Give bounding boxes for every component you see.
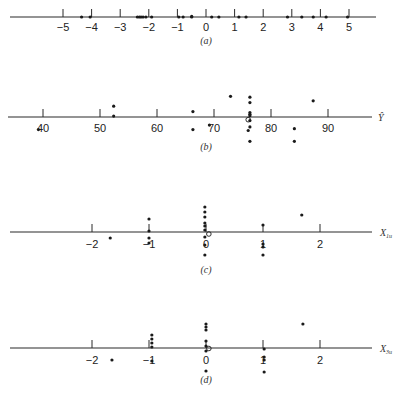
tick-label: 90 xyxy=(322,122,334,134)
data-point xyxy=(293,127,296,130)
data-point xyxy=(112,105,115,108)
x-axis-label: X1u xyxy=(379,227,392,239)
tick-label: 2 xyxy=(317,238,323,250)
tick-label: −2 xyxy=(86,238,99,250)
panel-c: −2−1012X1u(c) xyxy=(10,205,392,276)
data-point xyxy=(203,235,206,238)
tick-label: 40 xyxy=(37,122,49,134)
data-point xyxy=(325,15,328,18)
tick-label: 50 xyxy=(94,122,106,134)
data-point xyxy=(248,114,251,117)
data-point xyxy=(300,213,303,216)
data-point xyxy=(261,242,264,245)
data-point xyxy=(204,325,207,328)
data-point xyxy=(248,101,251,104)
data-point xyxy=(229,95,232,98)
data-point xyxy=(191,110,194,113)
panel-caption: (d) xyxy=(200,374,212,386)
data-point xyxy=(191,128,194,131)
data-point xyxy=(150,359,153,362)
panel-caption: (a) xyxy=(200,35,212,47)
data-point xyxy=(247,129,250,132)
data-point xyxy=(147,241,150,244)
data-point xyxy=(263,370,266,373)
data-point xyxy=(203,210,206,213)
data-point xyxy=(203,215,206,218)
data-point xyxy=(261,253,264,256)
tick-label: −2 xyxy=(143,21,156,33)
data-point xyxy=(150,15,153,18)
data-point xyxy=(150,333,153,336)
data-point xyxy=(261,223,264,226)
data-point xyxy=(263,358,266,361)
tick-label: 0 xyxy=(203,21,209,33)
data-point xyxy=(203,228,206,231)
tick-label: 1 xyxy=(232,21,238,33)
data-point xyxy=(300,15,303,18)
data-point xyxy=(147,236,150,239)
tick-label: 3 xyxy=(289,21,295,33)
data-point xyxy=(37,128,40,131)
data-point xyxy=(147,217,150,220)
tick-label: −4 xyxy=(85,21,98,33)
data-point xyxy=(110,358,113,361)
tick-label: −5 xyxy=(57,21,70,33)
data-point xyxy=(203,224,206,227)
data-point xyxy=(203,205,206,208)
tick-label: 0 xyxy=(203,354,209,366)
data-point xyxy=(248,125,251,128)
tick-label: 4 xyxy=(317,21,323,33)
tick-label: 2 xyxy=(317,354,323,366)
data-point xyxy=(203,221,206,224)
data-point xyxy=(237,15,240,18)
data-point xyxy=(204,322,207,325)
data-point xyxy=(312,99,315,102)
data-point xyxy=(203,243,206,246)
panel-caption: (c) xyxy=(200,264,212,276)
data-point xyxy=(112,115,115,118)
panel-caption: (b) xyxy=(200,141,212,153)
data-point xyxy=(248,96,251,99)
tick-label: −3 xyxy=(114,21,127,33)
data-point xyxy=(261,245,264,248)
panel-d: −2−1012X3u(d) xyxy=(10,322,392,386)
data-point xyxy=(89,15,92,18)
tick-label: 5 xyxy=(346,21,352,33)
data-point xyxy=(263,347,266,350)
data-point xyxy=(248,140,251,143)
tick-label: 2 xyxy=(260,21,266,33)
tick-label: 80 xyxy=(265,122,277,134)
data-point xyxy=(208,124,211,127)
panel-a: −5−4−3−2−1012345(a) xyxy=(10,9,376,47)
data-point xyxy=(210,15,213,18)
data-point xyxy=(204,328,207,331)
data-point xyxy=(244,15,247,18)
data-point xyxy=(150,337,153,340)
data-point xyxy=(80,15,83,18)
tick-label: −2 xyxy=(86,354,99,366)
data-point xyxy=(312,15,315,18)
tick-label: −1 xyxy=(171,21,184,33)
data-point xyxy=(182,15,185,18)
data-point xyxy=(144,15,147,18)
x-axis-label: Ŷ xyxy=(378,112,385,123)
data-point xyxy=(217,15,220,18)
data-point xyxy=(147,229,150,232)
residual-plots-figure: −5−4−3−2−1012345(a)405060708090Ŷ(b)−2−1… xyxy=(0,0,402,401)
data-point xyxy=(190,15,193,18)
data-point xyxy=(109,236,112,239)
data-point xyxy=(301,322,304,325)
data-point xyxy=(177,15,180,18)
tick-label: −1 xyxy=(143,354,156,366)
data-point xyxy=(346,15,349,18)
data-point xyxy=(150,341,153,344)
data-point xyxy=(204,369,207,372)
data-point xyxy=(204,339,207,342)
x-axis-label: X3u xyxy=(379,343,392,355)
data-point xyxy=(203,253,206,256)
data-point xyxy=(293,140,296,143)
data-point xyxy=(263,355,266,358)
data-point xyxy=(141,15,144,18)
panel-b: 405060708090Ŷ(b) xyxy=(8,95,385,153)
tick-label: 60 xyxy=(151,122,163,134)
